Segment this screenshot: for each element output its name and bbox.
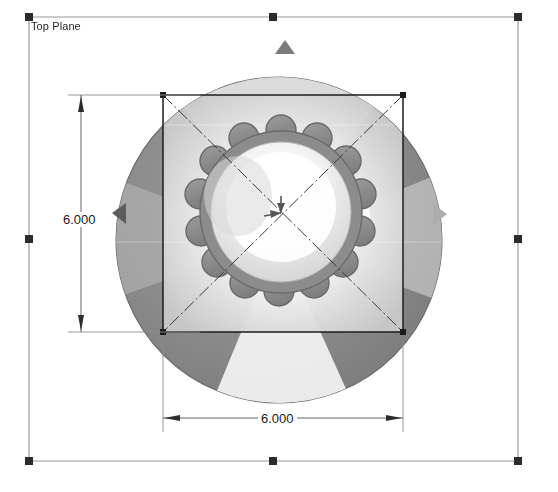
cad-viewport[interactable]: Top Plane 6.000 6.000 bbox=[0, 0, 558, 492]
gear-face-slot bbox=[264, 243, 294, 248]
handle-bottom-right[interactable] bbox=[514, 457, 522, 465]
dim-arrow-h-left bbox=[164, 415, 180, 421]
handle-mid-right[interactable] bbox=[514, 235, 522, 243]
dim-arrow-v-top bbox=[78, 96, 84, 112]
handle-top-right[interactable] bbox=[514, 13, 522, 21]
handle-mid-top[interactable] bbox=[269, 13, 277, 21]
sketch-corner-top-right[interactable] bbox=[400, 92, 406, 98]
handle-mid-left[interactable] bbox=[25, 235, 33, 243]
handle-bottom-left[interactable] bbox=[25, 457, 33, 465]
reference-plane-label[interactable]: Top Plane bbox=[31, 20, 81, 32]
gear-face-shadow bbox=[204, 156, 272, 236]
handle-mid-bottom[interactable] bbox=[269, 457, 277, 465]
dim-arrow-h-right bbox=[386, 415, 402, 421]
dimension-vertical-value[interactable]: 6.000 bbox=[60, 212, 99, 227]
arrow-up-marker[interactable] bbox=[275, 40, 295, 54]
sketch-corner-bottom-right[interactable] bbox=[400, 329, 406, 335]
dim-arrow-v-bottom bbox=[78, 315, 84, 331]
dimension-horizontal-value[interactable]: 6.000 bbox=[258, 411, 297, 426]
